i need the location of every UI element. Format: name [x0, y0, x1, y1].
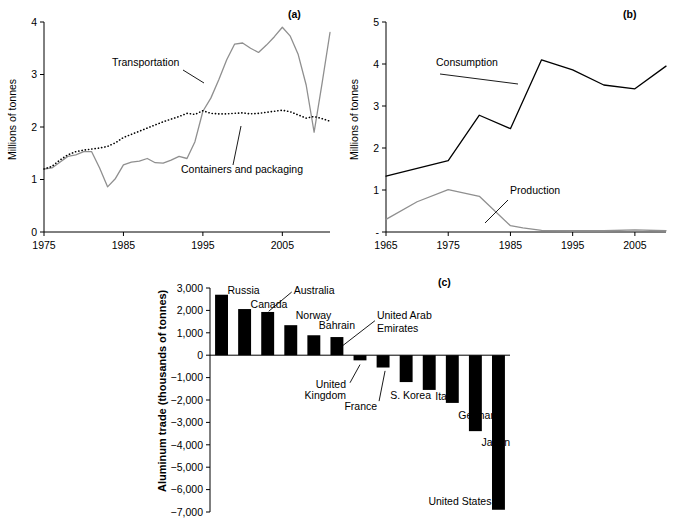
panel-c-bar-label-5-5: United Arab — [377, 309, 432, 321]
panel-c-y-tick-label: −2,000 — [171, 394, 204, 406]
panel-c-y-tick-label: −4,000 — [171, 439, 204, 451]
panel-c-leader-6 — [350, 365, 360, 383]
panel-a-leader-containers — [233, 126, 241, 165]
panel-c-bar-3 — [284, 325, 297, 355]
panel-c-bar-2 — [261, 312, 274, 355]
panel-c-y-tick-label: −1,000 — [171, 371, 204, 383]
panel-b-y-tick-label: 2 — [373, 142, 379, 154]
panel-c-y-tick-label: −6,000 — [171, 483, 204, 495]
panel-c-bar-label-6-8: Kingdom — [305, 389, 347, 401]
panel-c-bar-1 — [238, 309, 251, 355]
panel-b-label-consumption: Consumption — [436, 56, 498, 68]
panel-c-bar-label-7-9: France — [344, 400, 377, 412]
panel-c-y-tick-label: −5,000 — [171, 461, 204, 473]
panel-a-y-tick-label: 2 — [31, 121, 37, 133]
panel-c-bar-label-2-2: Australia — [294, 284, 335, 296]
panel-a-label-transportation: Transportation — [112, 56, 179, 68]
panel-b-series-0 — [386, 60, 666, 176]
panel-c-leader-7 — [379, 371, 385, 401]
panel-c-y-tick-label: 0 — [197, 349, 203, 361]
panel-a-axes — [44, 22, 330, 232]
panel-b-svg: -1234519651975198519952005 (b) Millions … — [340, 0, 676, 262]
panel-a-x-tick-label: 1975 — [32, 239, 56, 251]
panel-c-bar-9 — [423, 355, 436, 390]
panel-c-bar-4 — [307, 335, 320, 355]
panel-b-y-tick-label: 3 — [373, 100, 379, 112]
panel-c-bar-12 — [492, 355, 505, 510]
panel-b-y-tick-label: 5 — [373, 16, 379, 28]
panel-a-x-tick-label: 1995 — [191, 239, 215, 251]
panel-c-bar-label-0-0: Russia — [228, 284, 260, 296]
panel-c-y-tick-label: 2,000 — [177, 304, 203, 316]
panel-b-y-tick-label: - — [376, 226, 380, 238]
panel-c-tag: (c) — [438, 276, 451, 288]
panel-c-bar-label-5-6: Emirates — [377, 322, 418, 334]
panel-b-x-tick-label: 1995 — [561, 239, 585, 251]
panel-c-y-tick-label: 1,000 — [177, 327, 203, 339]
panel-a-y-tick-label: 4 — [31, 16, 37, 28]
panel-a-x-tick-label: 1985 — [112, 239, 136, 251]
panel-b-y-tick-label: 1 — [373, 184, 379, 196]
panel-c-aluminum-trade: 3,0002,0001,0000−1,000−2,000−3,000−4,000… — [150, 262, 550, 531]
panel-c-y-tick-label: −7,000 — [171, 506, 204, 518]
panel-c-bar-label-8-10: S. Korea — [390, 389, 431, 401]
panel-c-bar-label-9-11: Italy — [435, 390, 455, 402]
figure-aluminum-flows: 012341975198519952005 (a) Millions of to… — [0, 0, 676, 531]
panel-a-series-1 — [44, 110, 330, 169]
panel-a-tag: (a) — [288, 8, 301, 20]
panel-c-svg: 3,0002,0001,0000−1,000−2,000−3,000−4,000… — [150, 262, 550, 531]
panel-a-y-tick-label: 1 — [31, 173, 37, 185]
panel-b-y-axis-title: Millions of tonnes — [348, 79, 360, 160]
panel-a-transportation-containers: 012341975198519952005 (a) Millions of to… — [0, 0, 340, 262]
panel-b-axes — [386, 22, 666, 232]
panel-a-y-axis-title: Millions of tonnes — [6, 79, 18, 160]
panel-c-y-tick-label: 3,000 — [177, 282, 203, 294]
panel-c-y-tick-label: −3,000 — [171, 416, 204, 428]
panel-b-tag: (b) — [623, 8, 636, 20]
panel-a-label-containers: Containers and packaging — [181, 163, 303, 175]
panel-c-bar-8 — [400, 355, 413, 382]
panel-a-y-tick-label: 3 — [31, 68, 37, 80]
panel-c-bar-label-11-13: Japan — [481, 436, 510, 448]
panel-b-label-production: Production — [510, 184, 560, 196]
panel-b-y-tick-label: 4 — [373, 58, 379, 70]
panel-a-leader-transportation — [183, 70, 204, 83]
panel-b-x-tick-label: 1985 — [499, 239, 523, 251]
panel-c-bar-label-4-4: Bahrain — [319, 319, 355, 331]
panel-a-y-tick-label: 0 — [31, 226, 37, 238]
panel-b-leader-consumption — [440, 74, 518, 84]
panel-c-bar-7 — [377, 355, 390, 367]
panel-b-x-tick-label: 1965 — [374, 239, 398, 251]
panel-b-consumption-production: -1234519651975198519952005 (b) Millions … — [340, 0, 676, 262]
panel-a-svg: 012341975198519952005 (a) Millions of to… — [0, 0, 340, 262]
panel-c-bar-6 — [354, 355, 367, 360]
panel-c-bar-0 — [215, 295, 228, 355]
panel-c-bar-label-12-14: United States — [428, 495, 491, 507]
panel-b-x-tick-label: 2005 — [623, 239, 647, 251]
panel-c-y-axis-title: Aluminum trade (thousands of tonnes) — [156, 289, 168, 492]
panel-b-x-tick-label: 1975 — [437, 239, 461, 251]
panel-a-x-tick-label: 2005 — [271, 239, 295, 251]
panel-c-bar-label-10-12: Germany — [458, 409, 502, 421]
